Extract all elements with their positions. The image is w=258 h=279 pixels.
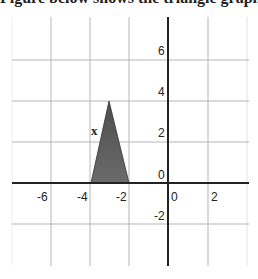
triangle-label: x [91,123,98,138]
y-tick-label: 4 [158,85,165,99]
y-tick-label: 2 [158,126,165,140]
y-tick-label: 6 [158,44,165,58]
y-tick-label: -2 [154,209,165,223]
x-tick-label: -6 [37,190,48,204]
y-tick-label: 0 [158,168,165,182]
x-tick-label: 2 [211,190,218,204]
x-tick-label: 0 [171,190,178,204]
coordinate-plane: -6 -4 -2 0 2 6 4 2 0 -2 x [0,0,258,279]
x-tick-label: -2 [116,190,127,204]
x-tick-label: -4 [77,190,88,204]
